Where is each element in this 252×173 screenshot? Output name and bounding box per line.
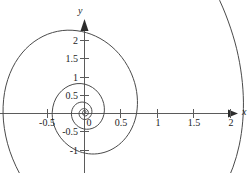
y-tick-label-1-5: 1.5 [66, 54, 79, 64]
y-tick-label-neg-1: -1 [70, 146, 78, 156]
spiral-curve [3, 0, 243, 173]
y-axis-arrow-icon [81, 19, 89, 31]
origin-label: 0 [87, 118, 92, 128]
plot-canvas [0, 0, 252, 173]
y-axis-label: y [78, 6, 82, 16]
y-tick-label-0-5: 0.5 [66, 91, 79, 101]
spiral-plot-figure: -0.5 0.5 1 1.5 2 0 2 1.5 1 0.5 -0.5 -1 x… [0, 0, 252, 173]
y-tick-label-neg-0-5: -0.5 [62, 127, 78, 137]
y-tick-label-1: 1 [73, 73, 78, 83]
axes-group [0, 19, 238, 173]
x-tick-label-0-5: 0.5 [115, 118, 128, 128]
x-axis-label: x [242, 107, 246, 117]
x-tick-label-1: 1 [156, 118, 161, 128]
x-tick-label-2: 2 [229, 118, 234, 128]
x-tick-label-neg-0-5: -0.5 [39, 118, 55, 128]
x-tick-label-1-5: 1.5 [188, 118, 201, 128]
y-tick-label-2: 2 [73, 36, 78, 46]
